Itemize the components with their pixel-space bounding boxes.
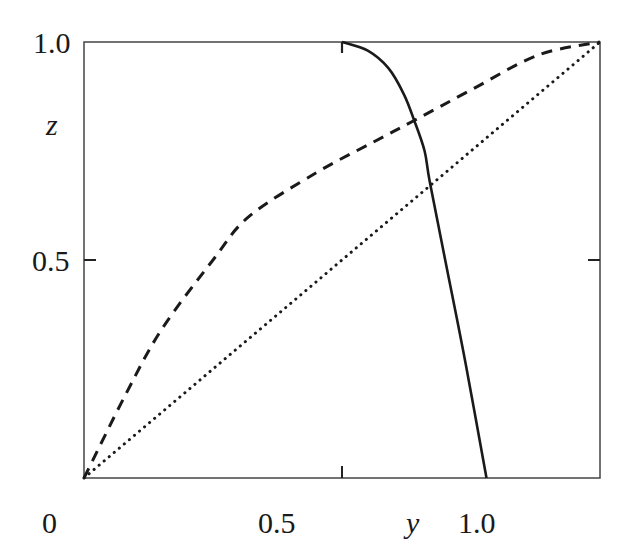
y-tick-label-05: 0.5 — [32, 246, 70, 276]
x-axis-label: y — [406, 508, 419, 538]
x-tick-label-0: 0 — [42, 508, 57, 538]
chart: 1.0 z 0.5 0 0.5 y 1.0 — [0, 0, 642, 557]
series-layer — [84, 42, 600, 478]
x-tick-label-1: 1.0 — [458, 508, 496, 538]
series-dotted-line — [84, 42, 600, 478]
y-tick-label-1: 1.0 — [33, 28, 71, 58]
y-axis-label: z — [46, 110, 58, 140]
series-solid-line — [342, 42, 487, 478]
plot-area — [0, 0, 642, 557]
x-tick-label-05: 0.5 — [258, 508, 296, 538]
